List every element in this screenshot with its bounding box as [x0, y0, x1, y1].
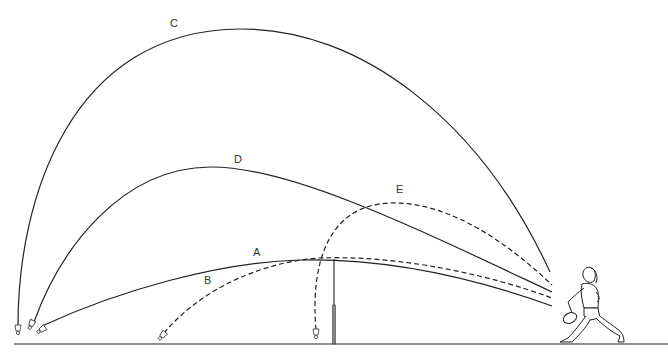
shuttlecock-icon: [26, 319, 35, 330]
shuttlecock-icon: [36, 325, 47, 335]
trajectory-a: [42, 260, 552, 326]
shuttlecock-icon: [15, 325, 21, 335]
label-c: C: [170, 17, 178, 29]
player-figure: [560, 267, 624, 342]
shuttlecock-icon: [157, 330, 168, 341]
trajectory-d: [34, 167, 552, 322]
label-e: E: [396, 183, 403, 195]
label-a: A: [253, 246, 260, 258]
shuttlecock-icon: [313, 329, 319, 339]
label-b: B: [204, 274, 211, 286]
net: [333, 259, 336, 344]
label-d: D: [234, 153, 242, 165]
trajectory-diagram: [0, 0, 668, 358]
